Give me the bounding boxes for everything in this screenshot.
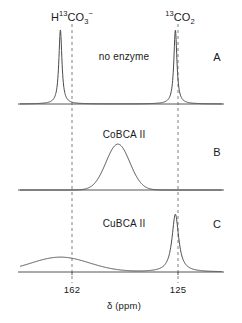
condition-label-panel-b: CoBCA II — [103, 130, 146, 140]
axis-title-chemical-shift: δ (ppm) — [107, 301, 141, 311]
condition-label-panel-a: no enzyme — [99, 52, 150, 62]
species-label-carbon-dioxide: 13CO2 — [165, 12, 195, 23]
spectrum-trace-panel-b — [20, 144, 222, 190]
condition-label-panel-c: CuBCA II — [103, 219, 146, 229]
panel-letter-a: A — [213, 52, 221, 63]
species-label-bicarbonate: H13CO3− — [51, 12, 93, 23]
species-charge: − — [89, 9, 93, 18]
panel-letter-b: B — [213, 147, 221, 158]
species-superscript: 13 — [59, 9, 68, 18]
species-mid: CO — [174, 11, 191, 23]
species-superscript: 13 — [165, 9, 174, 18]
species-subscript: 3 — [84, 17, 88, 26]
axis-tick-label-162: 162 — [64, 285, 80, 295]
species-subscript: 2 — [190, 17, 194, 26]
spectra-plot-area — [0, 0, 242, 323]
spectrum-trace-panel-a — [20, 30, 222, 104]
axis-tick-label-125: 125 — [170, 285, 186, 295]
panel-letter-c: C — [213, 219, 221, 230]
species-mid: CO — [68, 11, 85, 23]
guide-lines — [72, 24, 178, 283]
spectrum-traces — [20, 30, 222, 272]
species-pre: H — [51, 11, 59, 23]
nmr-spectra-figure: H13CO3− 13CO2 no enzyme CoBCA II CuBCA I… — [0, 0, 242, 323]
